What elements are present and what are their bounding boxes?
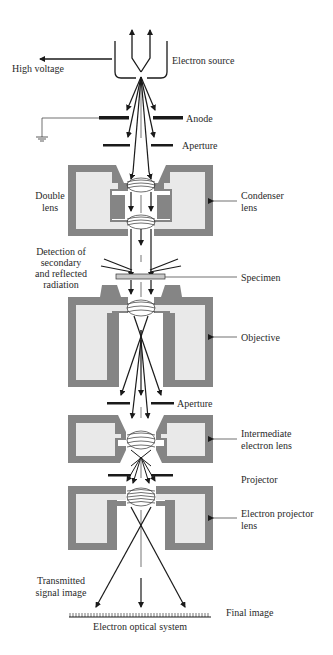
label-detection: Detection of secondary and reflected rad… [28,246,94,290]
objective-input-beam [131,280,151,297]
label-double-lens-line1: Double [30,190,70,201]
label-transmitted-line2: signal image [30,587,92,598]
label-aperture-top: Aperture [182,140,218,151]
label-condenser-lens: Condenser lens [241,190,284,213]
label-intermediate-line1: Intermediate [241,428,292,439]
label-projector-lens-line2: lens [241,520,313,531]
condenser-beam [131,192,151,277]
label-detection-line1: Detection of [28,246,94,257]
label-intermediate-lens: Intermediate electron lens [241,428,292,451]
label-double-lens-line2: lens [30,202,70,213]
label-detection-line4: radiation [28,279,94,290]
intermediate-coils [127,431,155,449]
specimen [116,274,165,279]
label-aperture-mid: Aperture [177,398,213,409]
label-projector-lens: Electron projector lens [241,508,313,531]
label-projector: Projector [241,474,278,485]
label-anode: Anode [186,113,213,124]
label-transmitted: Transmitted signal image [30,575,92,598]
label-detection-line2: secondary [28,257,94,268]
label-detection-line3: and reflected [28,268,94,279]
label-specimen: Specimen [241,272,280,283]
objective-coils [127,300,155,316]
label-condenser-line1: Condenser [241,190,284,201]
label-electron-source: Electron source [172,55,234,66]
label-intermediate-line2: electron lens [241,440,292,451]
intermediate-beam [127,450,155,483]
final-image-screen [69,613,211,617]
electron-beam-upper [127,77,155,179]
label-double-lens: Double lens [30,190,70,213]
anode [36,116,183,141]
aperture-mid [107,402,174,405]
electron-microscope-diagram [0,0,333,655]
projector-aperture [108,474,173,477]
intermediate-lens-housing [68,415,213,463]
label-final-image: Final image [226,607,274,618]
label-objective: Objective [241,332,280,343]
aperture-top [103,144,173,147]
label-condenser-line2: lens [241,202,284,213]
diagram-caption: Electron optical system [69,621,211,632]
condenser-lens-housing [68,165,213,236]
projector-coils [127,488,155,506]
label-transmitted-line1: Transmitted [30,575,92,586]
label-projector-lens-line1: Electron projector [241,508,313,519]
label-high-voltage: High voltage [12,63,64,74]
